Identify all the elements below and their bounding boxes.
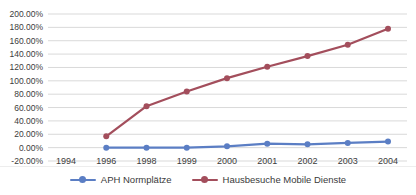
x-tick-label: 1999 xyxy=(177,156,197,166)
line-chart: 200.00%180.00%160.00%140.00%120.00%100.0… xyxy=(0,0,416,166)
x-tick-label: 2000 xyxy=(217,156,237,166)
data-point-marker xyxy=(385,26,391,32)
legend-item-hausbesuche-mobile-dienste: Hausbesuche Mobile Dienste xyxy=(192,175,347,185)
y-tick-label: 40.00% xyxy=(14,116,43,126)
y-tick-label: 20.00% xyxy=(14,129,43,139)
data-point-marker xyxy=(264,141,270,147)
x-tick-label: 2003 xyxy=(338,156,358,166)
x-tick-label: 1998 xyxy=(136,156,156,166)
legend-label: Hausbesuche Mobile Dienste xyxy=(223,175,347,185)
y-tick-label: 60.00% xyxy=(14,103,43,113)
data-point-marker xyxy=(305,53,311,59)
legend-line-marker-red xyxy=(192,179,218,182)
data-point-marker xyxy=(385,139,391,145)
y-tick-label: 120.00% xyxy=(9,62,43,72)
x-tick-label: 2002 xyxy=(297,156,317,166)
data-point-marker xyxy=(184,145,190,151)
data-point-marker xyxy=(305,141,311,147)
x-tick-label: 1996 xyxy=(96,156,116,166)
y-tick-label: 140.00% xyxy=(9,49,43,59)
y-tick-label: 100.00% xyxy=(9,76,43,86)
legend-label: APH Normplätze xyxy=(101,175,172,185)
data-point-marker xyxy=(264,64,270,70)
chart-legend: APH Normplätze Hausbesuche Mobile Dienst… xyxy=(0,166,416,185)
y-tick-label: 200.00% xyxy=(9,9,43,19)
y-tick-label: -20.00% xyxy=(11,156,43,166)
data-point-marker xyxy=(103,133,109,139)
x-tick-label: 2004 xyxy=(378,156,398,166)
y-tick-label: 80.00% xyxy=(14,89,43,99)
data-point-marker xyxy=(345,140,351,146)
data-point-marker xyxy=(144,103,150,109)
legend-line-marker-blue xyxy=(70,179,96,182)
x-tick-label: 2001 xyxy=(257,156,277,166)
legend-dot-icon xyxy=(79,176,86,183)
data-point-marker xyxy=(345,42,351,48)
legend-dot-icon xyxy=(201,176,208,183)
y-tick-label: 160.00% xyxy=(9,36,43,46)
data-point-marker xyxy=(103,145,109,151)
y-tick-label: 0.00% xyxy=(19,143,44,153)
legend-item-aph-normplaetze: APH Normplätze xyxy=(70,175,172,185)
x-tick-label: 1994 xyxy=(56,156,76,166)
y-tick-label: 180.00% xyxy=(9,22,43,32)
data-point-marker xyxy=(144,145,150,151)
data-point-marker xyxy=(224,143,230,149)
line-chart-container: 200.00%180.00%160.00%140.00%120.00%100.0… xyxy=(0,0,416,195)
data-point-marker xyxy=(224,75,230,81)
data-point-marker xyxy=(184,89,190,95)
